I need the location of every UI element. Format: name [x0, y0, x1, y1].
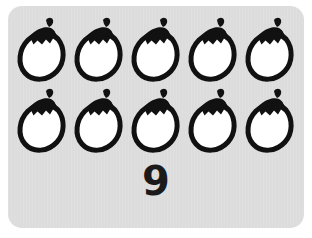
eggplant-icon: [71, 15, 128, 84]
eggplant-icon: [71, 86, 128, 155]
eggplant-row-1: [8, 15, 304, 84]
eggplant-icon: [242, 15, 299, 84]
eggplant-icon: [185, 15, 242, 84]
eggplant-icon: [242, 86, 299, 155]
eggplant-icon: [14, 86, 71, 155]
eggplant-icon: [128, 15, 185, 84]
count-label: 9: [142, 161, 170, 201]
eggplant-icon: [128, 86, 185, 155]
eggplant-icon-grid: [8, 6, 304, 155]
eggplant-row-2: [8, 86, 304, 155]
eggplant-icon: [185, 86, 242, 155]
counting-card: 9: [8, 6, 304, 228]
eggplant-icon: [14, 15, 71, 84]
